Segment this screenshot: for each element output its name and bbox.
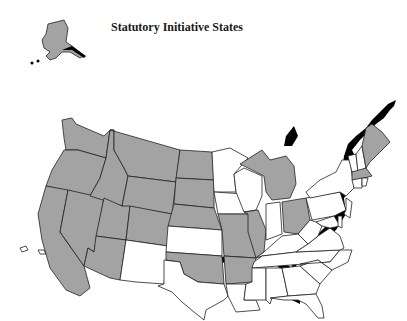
state-new-york: [306, 160, 354, 198]
state-indiana: [266, 202, 282, 240]
state-florida: [270, 294, 324, 318]
state-nebraska: [168, 204, 222, 230]
state-rhode-island: [362, 178, 368, 186]
state-arkansas: [224, 256, 256, 284]
us-map: [0, 0, 407, 321]
state-connecticut: [352, 178, 362, 188]
state-south-dakota: [174, 178, 214, 208]
state-kansas: [166, 226, 222, 256]
state-alaska: [42, 20, 84, 60]
state-new-mexico: [120, 240, 168, 284]
state-north-dakota: [176, 150, 214, 180]
state-delaware: [338, 216, 342, 228]
state-maine: [362, 124, 390, 168]
